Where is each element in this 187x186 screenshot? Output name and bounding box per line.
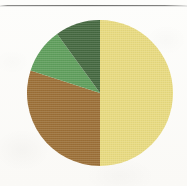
pie-chart bbox=[27, 20, 173, 166]
horizontal-rule-shadow bbox=[0, 6, 187, 7]
pie-svg bbox=[27, 20, 173, 166]
pie-slice-yellow bbox=[100, 20, 173, 166]
pie-chart-figure bbox=[0, 0, 187, 186]
